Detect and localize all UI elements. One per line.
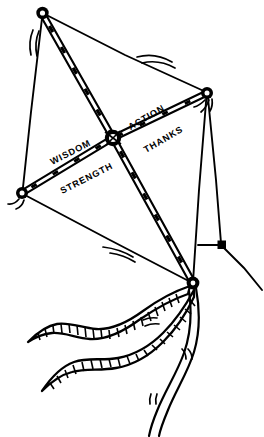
right-wingtip-knot-inner [205,91,210,96]
motion-arc-lower-2 [110,253,135,262]
motion-tick-tail-6 [156,394,157,404]
sail-edge-right-bottom [193,96,207,282]
motion-tick-tail-5 [150,394,151,404]
bottom-tail-knot-inner [191,281,196,286]
motion-arc-apex-1 [30,30,33,55]
left-wingtip-whiskers [8,199,24,209]
motion-tick-tail-2 [145,324,159,326]
spar-vertical-highlight [42,13,193,283]
center-cross-joint [105,130,121,146]
motion-marks [30,30,192,404]
left-wingtip-knot-inner [20,191,25,196]
spar-wisdom-strength [42,13,193,283]
sail-edge-apex-left [23,14,43,192]
apex-knot-inner [40,10,45,15]
bridle-and-flying-line [198,98,262,290]
flying-line [224,248,262,290]
motion-arc-lower-1 [103,247,133,257]
bridle-tow-point [218,241,227,250]
kite-drawing-canvas: WISDOM STRENGTH ACTION THANKS [0,0,264,437]
label-thanks: THANKS [142,124,185,155]
kite-illustration: WISDOM STRENGTH ACTION THANKS [0,0,264,437]
bridle-line-upper [208,98,221,243]
